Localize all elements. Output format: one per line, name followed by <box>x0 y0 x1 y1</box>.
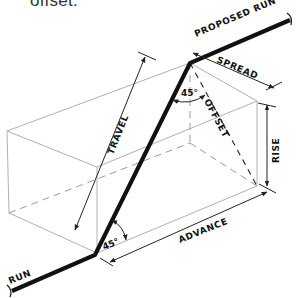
angle-top-label: 45° <box>181 88 198 98</box>
pipe-offset-diagram: TRAVEL SPREAD PROPOSED RUN OFFSET RISE A… <box>0 0 296 298</box>
pipe-line <box>12 20 290 291</box>
advance-dimension <box>100 192 267 266</box>
spread-label: SPREAD <box>215 55 260 81</box>
travel-label: TRAVEL <box>106 113 131 156</box>
offset-label: OFFSET <box>202 97 231 139</box>
run-end-cap <box>7 285 11 297</box>
rise-label: RISE <box>271 138 281 163</box>
